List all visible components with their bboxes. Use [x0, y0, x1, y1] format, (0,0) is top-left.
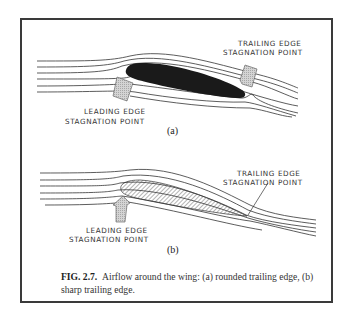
- leading-label-b-line2: STAGNATION POINT: [69, 235, 149, 244]
- panel-b-label: (b): [167, 244, 179, 256]
- figure-caption: FIG. 2.7. Airflow around the wing: (a) r…: [61, 271, 331, 296]
- leading-edge-arrow-a: [113, 77, 133, 101]
- airfoil-rounded: [126, 63, 245, 98]
- panel-a: TRAILING EDGE STAGNATION POINT LEADING E…: [37, 39, 303, 137]
- trailing-label-a-line2: STAGNATION POINT: [223, 48, 303, 57]
- trailing-edge-arrow-a: [240, 65, 257, 87]
- figure-number: FIG. 2.7.: [61, 271, 97, 282]
- trailing-label-b-line2: STAGNATION POINT: [223, 178, 303, 187]
- leading-label-a-line2: STAGNATION POINT: [65, 117, 145, 126]
- leading-label-a-line1: LEADING EDGE: [84, 107, 146, 116]
- figure-caption-text: Airflow around the wing: (a) rounded tra…: [61, 271, 313, 295]
- trailing-label-a-line1: TRAILING EDGE: [237, 39, 301, 48]
- panel-b: TRAILING EDGE STAGNATION POINT LEADING E…: [40, 169, 316, 256]
- leading-label-b-line1: LEADING EDGE: [86, 226, 148, 235]
- leading-edge-arrow-b: [113, 196, 130, 222]
- trailing-edge-leader-line: [248, 183, 268, 215]
- trailing-label-b-line1: TRAILING EDGE: [236, 169, 300, 178]
- panel-a-label: (a): [167, 125, 178, 137]
